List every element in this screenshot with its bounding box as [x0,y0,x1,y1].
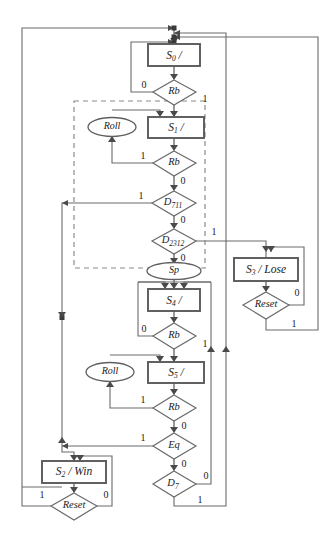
decision-eq[interactable]: Eq [153,433,196,459]
arrowhead-d711-false-to-d2312 [170,223,178,229]
decision-d2312[interactable]: D2312 [152,229,196,254]
decision-rb-after-s5[interactable]: Rb [153,395,196,421]
branch-label-reset3-true: 1 [292,318,297,329]
decision-rb5-label: Rb [167,401,180,412]
branch-label-reset3-false: 0 [295,287,300,298]
wire-s4-merge-right [184,282,211,289]
decision-rb0-label: Rb [167,85,180,96]
branch-label-rb0-false: 0 [142,79,147,90]
state-s1-label: S1 / [168,121,185,135]
wire-reset-win-to-start [22,28,174,487]
state-box-s1[interactable]: S1 / [148,117,204,138]
arrowhead-rb5-false-to-eq [170,427,178,433]
branch-label-rb4-true: 1 [203,338,208,349]
branch-label-reset2-false: 0 [104,489,109,500]
arrowhead-rail-bottom [58,437,66,443]
output-roll-top-label: Roll [103,120,121,131]
branch-label-d2312-true: 1 [212,226,217,237]
junction-top-1 [172,26,177,31]
wire-d2312-true-to-s3 [196,241,266,252]
arrowhead-rb1-false-to-d711 [170,185,178,191]
output-sp-label: Sp [169,264,179,275]
decision-rb1-label: Rb [167,156,180,167]
arrowhead-eq-false-to-d7 [170,465,178,471]
decision-rb-after-s4[interactable]: Rb [153,323,196,349]
branch-label-rb0-true: 1 [203,93,208,104]
branch-label-rb1-false: 0 [181,175,186,186]
wire-reset2-true-out [22,487,51,506]
decision-d7[interactable]: D7 [153,471,196,497]
state-box-s5[interactable]: S5 / [148,362,204,383]
branch-label-rb5-true: 1 [141,394,146,405]
state-box-s0[interactable]: S0 / [148,44,200,66]
asm-flowchart-svg: S0 / Rb 0 1 Roll S1 / Rb 1 0 [0,0,332,534]
wire-rollbot-merge [110,355,160,362]
decision-eq-label: Eq [167,439,180,450]
decision-rb-after-s1[interactable]: Rb [153,151,196,176]
arrowhead-s5-to-rb5 [170,389,178,395]
asm-chart-canvas: S0 / Rb 0 1 Roll S1 / Rb 1 0 [0,0,332,534]
arrowhead-s4-to-rb4 [170,317,178,323]
arrowhead-reset3-false-loop [267,246,275,252]
decision-d711[interactable]: D711 [152,191,196,216]
branch-label-d7-true: 1 [198,494,203,505]
state-box-s2-win[interactable]: S2 / Win [42,461,106,483]
output-oval-roll-bottom[interactable]: Roll [86,363,134,382]
arrowhead-d7-false-rail [207,346,215,352]
arrowhead-s2-to-reset2 [70,487,78,493]
arrowhead-s0-to-rb0 [170,74,178,80]
decision-rb4-label: Rb [167,329,180,340]
wire-s4-merge-left [138,282,165,289]
state-s5-label: S5 / [168,366,185,380]
decision-reset-lose[interactable]: Reset [243,292,289,319]
branch-label-d7-false: 0 [204,470,209,481]
branch-label-rb5-false: 0 [182,420,187,431]
state-box-s4[interactable]: S4 / [148,289,200,311]
arrowhead-s1-to-rb1 [170,145,178,151]
arrowhead-d711-true-rail [62,200,68,206]
wire-rb1-true-to-roll [112,136,153,163]
branch-label-rb1-true: 1 [141,150,146,161]
junction-top-2 [172,35,177,40]
wire-rb5-true-to-roll [110,381,153,408]
state-s4-label: S4 / [166,294,183,308]
arrowhead-rail-mid [58,312,66,318]
wire-rolltop-merge [112,110,160,117]
branch-label-d711-false: 0 [181,214,186,225]
branch-label-eq-false: 0 [182,458,187,469]
output-oval-roll-top[interactable]: Roll [88,118,136,137]
arrowhead-s3-to-reset3 [262,286,270,292]
branch-label-d2312-false: 0 [181,252,186,263]
arrowhead-d7-true-rail [222,346,230,352]
branch-label-reset2-true: 1 [40,489,45,500]
arrowhead-eq-true-left [62,443,68,449]
branch-label-eq-true: 1 [141,432,146,443]
output-roll-bottom-label: Roll [101,365,119,376]
output-oval-sp[interactable]: Sp [147,263,201,280]
state-s0-label: S0 / [166,49,183,63]
decision-reset-win[interactable]: Reset [51,493,97,520]
state-s2-label: S2 / Win [56,465,93,479]
state-box-s3-lose[interactable]: S3 / Lose [234,258,298,281]
branch-label-d711-true: 1 [139,190,144,201]
branch-label-rb4-false: 0 [142,323,147,334]
decision-reset2-label: Reset [62,499,87,510]
decision-reset3-label: Reset [254,298,279,309]
